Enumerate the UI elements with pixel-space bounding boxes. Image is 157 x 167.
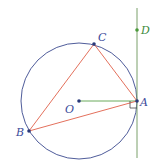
geometry-diagram: C D O A B bbox=[0, 0, 157, 167]
segment-ab bbox=[29, 101, 137, 131]
point-d bbox=[135, 28, 139, 32]
point-o bbox=[77, 99, 81, 103]
label-b: B bbox=[15, 126, 24, 139]
label-a: A bbox=[139, 96, 148, 109]
label-o: O bbox=[65, 103, 74, 116]
point-c bbox=[92, 42, 96, 46]
segment-bc bbox=[29, 44, 94, 131]
label-c: C bbox=[98, 31, 107, 44]
point-a bbox=[135, 99, 139, 103]
label-d: D bbox=[140, 24, 150, 37]
point-b bbox=[27, 129, 31, 133]
segment-ca bbox=[94, 44, 137, 101]
